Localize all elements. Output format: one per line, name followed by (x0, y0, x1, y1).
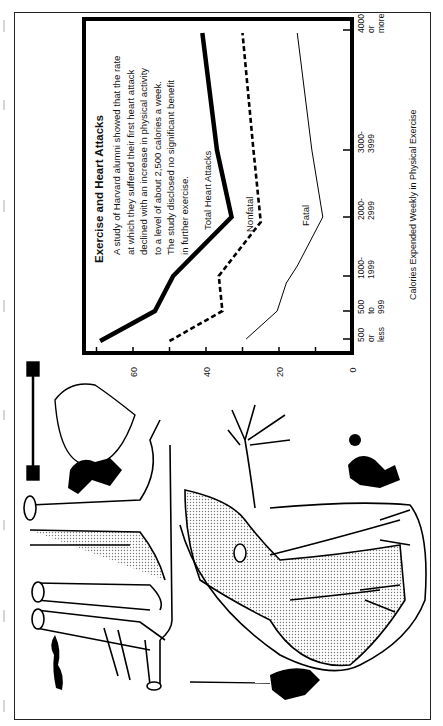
vessel-2 (30, 530, 165, 580)
tennis-racket-icon (349, 434, 361, 446)
rope-line (190, 682, 270, 683)
rope-climber-silhouette (270, 668, 320, 700)
figure: 0204060 500orless500to9991000-19992000-2… (0, 0, 443, 726)
tennis-player-silhouette (348, 456, 400, 488)
heart-illustration (0, 0, 443, 726)
heart-chamber (185, 490, 405, 665)
diver-silhouette (51, 635, 63, 690)
descending-vessel-2 (145, 640, 160, 688)
branch-tree (228, 405, 290, 508)
descending-vessel (104, 628, 130, 680)
vessel-3 (36, 583, 161, 610)
main-trunk (160, 445, 172, 640)
